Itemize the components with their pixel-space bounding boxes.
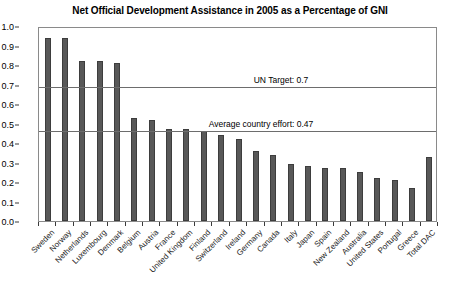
bar [288,164,294,221]
y-tick-label: 0.6 [0,100,14,110]
x-tick-mark [211,222,212,226]
bar [201,131,207,221]
y-tick-mark [15,27,19,28]
y-tick-mark [15,46,19,47]
x-tick-mark [55,222,56,226]
x-tick-mark [73,222,74,226]
y-tick-label: 0.7 [0,81,14,91]
x-tick-mark [246,222,247,226]
x-tick-mark [159,222,160,226]
reference-line [39,131,436,132]
bar [97,61,103,221]
reference-line-label: Average country effort: 0.47 [209,119,314,131]
x-tick-mark [90,222,91,226]
y-tick-label: 1.0 [0,22,14,32]
x-tick-mark [38,222,39,226]
reference-line [39,87,436,88]
y-tick-mark [15,163,19,164]
x-tick-mark [177,222,178,226]
x-tick-mark [350,222,351,226]
x-tick-mark [420,222,421,226]
bar [45,38,51,221]
bar [62,38,68,221]
x-tick-mark [281,222,282,226]
bar [357,172,363,221]
y-tick-mark [15,85,19,86]
y-tick-label: 0.1 [0,198,14,208]
x-tick-mark [229,222,230,226]
y-tick-mark [15,144,19,145]
bar [340,168,346,221]
bar [149,120,155,221]
y-tick-label: 0.4 [0,139,14,149]
bar [166,129,172,221]
x-tick-mark [125,222,126,226]
x-tick-mark [368,222,369,226]
y-tick-label: 0.5 [0,120,14,130]
x-tick-mark [142,222,143,226]
x-tick-mark [107,222,108,226]
bar [270,155,276,221]
bars-layer: UN Target: 0.7Average country effort: 0.… [39,28,436,221]
y-tick-label: 0.9 [0,42,14,52]
x-tick-mark [194,222,195,226]
y-tick-label: 0.0 [0,217,14,227]
bar [218,135,224,221]
y-tick-mark [15,66,19,67]
plot-area: UN Target: 0.7Average country effort: 0.… [38,27,437,222]
x-tick-mark [385,222,386,226]
bar [426,157,432,221]
bar [409,188,415,221]
x-tick-mark [264,222,265,226]
y-tick-mark [15,124,19,125]
y-tick-mark [15,202,19,203]
y-tick-label: 0.8 [0,61,14,71]
x-axis-ticks [38,222,437,227]
x-tick-mark [298,222,299,226]
reference-line-label: UN Target: 0.7 [254,75,309,87]
bar [79,61,85,221]
chart-title: Net Official Development Assistance in 2… [0,5,460,16]
x-tick-label: Japan [294,228,316,250]
bar [305,166,311,221]
chart-figure: Net Official Development Assistance in 2… [0,0,460,296]
x-tick-mark [402,222,403,226]
x-tick-mark [333,222,334,226]
y-tick-mark [15,183,19,184]
y-tick-mark [15,222,19,223]
bar [131,118,137,221]
y-tick-label: 0.2 [0,178,14,188]
x-tick-mark [316,222,317,226]
bar [392,180,398,221]
x-tick-mark [437,222,438,226]
y-tick-mark [15,105,19,106]
bar [374,178,380,221]
bar [322,168,328,221]
bar [253,151,259,221]
bar [183,129,189,221]
bar [236,139,242,221]
x-axis-labels: SwedenNorwayNetherlandsLuxembourgDenmark… [38,228,448,296]
y-tick-label: 0.3 [0,159,14,169]
